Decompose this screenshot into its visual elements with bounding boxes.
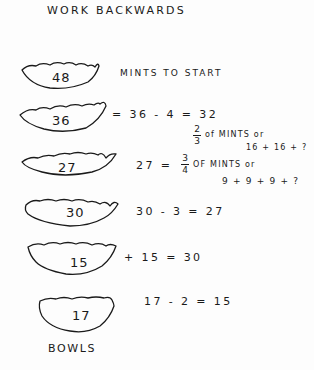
fraction-denominator: 3 <box>194 137 200 146</box>
equation-17: 17 - 2 = 15 <box>144 295 233 308</box>
fraction-numerator: 3 <box>182 154 188 163</box>
fraction-three-quarters: 3 4 <box>181 154 189 175</box>
bowl-count-48: 48 <box>52 70 71 85</box>
fraction-numerator: 2 <box>194 125 200 134</box>
bowl-count-15: 15 <box>70 255 89 270</box>
start-note: MINTS TO START <box>120 68 222 78</box>
equation-30: 30 - 3 = 27 <box>136 205 225 218</box>
bowl-count-36: 36 <box>52 113 71 128</box>
worksheet-page: WORK BACKWARDS 48 36 27 30 15 17 MINTS T… <box>0 0 314 370</box>
equation-36: = 36 - 4 = 32 <box>112 108 218 121</box>
fraction-two-thirds: 2 3 <box>193 125 201 146</box>
fraction-denominator: 4 <box>182 166 188 175</box>
sum-note-36: 16 + 16 + ? <box>246 143 307 152</box>
equation-27: 27 = <box>136 159 172 172</box>
sum-note-27: 9 + 9 + 9 + ? <box>222 176 299 186</box>
equation-15: + 15 = 30 <box>124 251 203 264</box>
bowls-label: BOWLS <box>48 342 96 355</box>
fraction-note-36: of MINTS or <box>205 130 264 139</box>
bowl-count-30: 30 <box>66 205 85 220</box>
bowl-count-27: 27 <box>58 160 77 175</box>
fraction-note-27: OF MINTS or <box>193 160 256 169</box>
bowl-count-17: 17 <box>72 308 91 323</box>
